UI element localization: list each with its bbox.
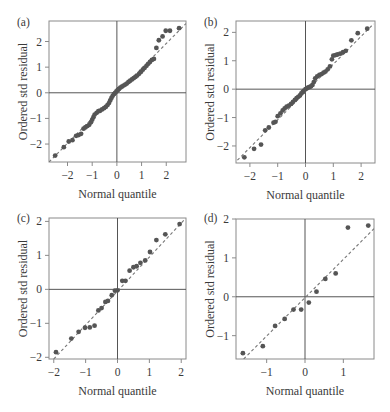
data-point	[177, 26, 182, 31]
data-point	[306, 300, 311, 305]
x-tick-label: −1	[261, 366, 273, 378]
y-tick-label: 0	[223, 291, 229, 303]
data-point	[242, 155, 247, 160]
x-tick-label: −2	[244, 170, 256, 182]
y-tick-label: −1	[30, 112, 42, 124]
x-axis-title: Normal quantile	[78, 187, 156, 201]
data-point	[156, 38, 161, 43]
data-point	[333, 271, 338, 276]
x-tick-label: 1	[139, 169, 145, 181]
y-tick-label: 1	[223, 55, 229, 67]
data-point	[273, 119, 278, 124]
data-point	[138, 260, 143, 265]
data-point	[83, 325, 88, 330]
data-point	[61, 145, 66, 150]
data-point	[99, 306, 104, 311]
data-point	[349, 38, 354, 43]
data-point	[143, 258, 148, 263]
x-axis-title: Normal quantile	[266, 188, 344, 202]
reference-fit-line	[244, 229, 374, 359]
y-axis-title: Ordered std residual	[203, 43, 217, 141]
panel-label: (b)	[204, 16, 218, 29]
data-point	[79, 131, 84, 136]
panel-a: −2−1012−2−1012Normal quantileOrdered std…	[16, 16, 186, 201]
y-tick-label: 2	[223, 26, 229, 38]
panel-c: −2−1012−2−1012Normal quantileOrdered std…	[16, 212, 186, 398]
y-tick-label: −2	[30, 351, 42, 363]
x-tick-label: 0	[303, 170, 309, 182]
x-tick-label: 0	[115, 366, 121, 378]
x-tick-label: −1	[272, 170, 284, 182]
data-point	[168, 28, 173, 33]
panel-label: (c)	[17, 212, 30, 225]
x-tick-label: 0	[114, 169, 120, 181]
panel-label: (d)	[204, 212, 218, 225]
data-point	[241, 351, 246, 356]
y-tick-label: 0	[36, 283, 42, 295]
y-tick-label: −1	[217, 330, 229, 342]
x-tick-label: 1	[330, 170, 336, 182]
qq-plot-figure: −2−1012−2−1012Normal quantileOrdered std…	[0, 0, 390, 412]
data-point	[252, 146, 257, 151]
data-point	[163, 232, 168, 237]
data-point	[259, 142, 264, 147]
data-point	[53, 153, 58, 158]
data-point	[87, 325, 92, 330]
data-point	[346, 225, 351, 230]
data-point	[365, 26, 370, 31]
data-point	[154, 46, 159, 51]
y-tick-label: 0	[223, 83, 229, 95]
y-tick-label: −1	[30, 317, 42, 329]
x-tick-label: −2	[48, 366, 60, 378]
data-point	[92, 323, 97, 328]
x-tick-label: −1	[80, 366, 92, 378]
x-tick-label: 0	[302, 366, 308, 378]
data-point	[70, 138, 75, 143]
x-tick-label: 2	[163, 169, 169, 181]
data-point	[177, 222, 182, 227]
data-point	[355, 31, 360, 36]
panel-b: −2−1012−2−1012Normal quantileOrdered std…	[203, 16, 375, 202]
data-point	[76, 329, 81, 334]
y-axis-title: Ordered std residual	[16, 239, 30, 337]
y-tick-label: 1	[36, 249, 42, 261]
data-point	[163, 28, 168, 33]
data-point	[299, 307, 304, 312]
x-tick-label: 1	[146, 366, 152, 378]
x-axis-title: Normal quantile	[78, 384, 156, 398]
y-tick-label: 2	[223, 213, 229, 225]
y-axis-title: Ordered std residual	[203, 240, 217, 338]
data-point	[314, 289, 319, 294]
data-point	[160, 34, 165, 39]
data-point	[54, 350, 59, 355]
data-point	[291, 307, 296, 312]
data-point	[148, 250, 153, 255]
y-tick-label: 2	[36, 36, 42, 48]
panel-d: −101−1012Normal quantileOrdered std resi…	[203, 212, 374, 398]
data-point	[109, 293, 114, 298]
data-point	[134, 264, 139, 269]
x-tick-label: −2	[61, 169, 73, 181]
y-tick-label: −2	[30, 138, 42, 150]
data-point	[328, 64, 333, 69]
y-tick-label: −2	[217, 140, 229, 152]
data-point	[69, 336, 74, 341]
data-point	[273, 324, 278, 329]
x-tick-label: 1	[340, 366, 346, 378]
data-point	[366, 223, 371, 228]
data-point	[343, 48, 348, 53]
data-point	[123, 278, 128, 283]
y-tick-label: 1	[223, 252, 229, 264]
data-point	[115, 288, 120, 293]
y-tick-label: 0	[36, 87, 42, 99]
data-point	[260, 344, 265, 349]
data-point	[323, 276, 328, 281]
x-tick-label: 2	[358, 170, 364, 182]
y-tick-label: 2	[36, 215, 42, 227]
data-point	[106, 299, 111, 304]
x-tick-label: 2	[178, 366, 184, 378]
panel-label: (a)	[17, 16, 30, 29]
data-point	[282, 317, 287, 322]
x-tick-label: −1	[86, 169, 98, 181]
data-point	[152, 57, 157, 62]
